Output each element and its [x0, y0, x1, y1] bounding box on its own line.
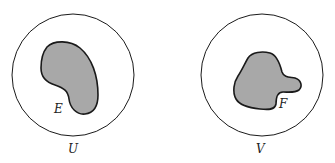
- region-e-label: E: [53, 102, 63, 116]
- region-e: [41, 42, 98, 114]
- region-f-label: F: [278, 97, 288, 111]
- left-figure: E U: [12, 14, 134, 156]
- diagram-canvas: E U F V: [0, 0, 335, 163]
- region-f: [234, 52, 301, 109]
- set-u-label: U: [68, 142, 79, 156]
- set-v-label: V: [256, 142, 266, 156]
- right-figure: F V: [201, 14, 323, 156]
